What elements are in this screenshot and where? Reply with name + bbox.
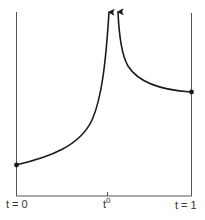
end-point-dot bbox=[189, 90, 194, 95]
start-point-dot bbox=[14, 163, 19, 168]
left-curve bbox=[16, 12, 109, 165]
label-t-start: t = 0 bbox=[6, 198, 28, 210]
label-t0-superscript: 0 bbox=[106, 196, 110, 205]
label-t-end: t = 1 bbox=[175, 199, 197, 211]
right-curve bbox=[118, 12, 191, 92]
label-t0: t0 bbox=[103, 196, 111, 210]
diagram-canvas bbox=[0, 0, 205, 220]
